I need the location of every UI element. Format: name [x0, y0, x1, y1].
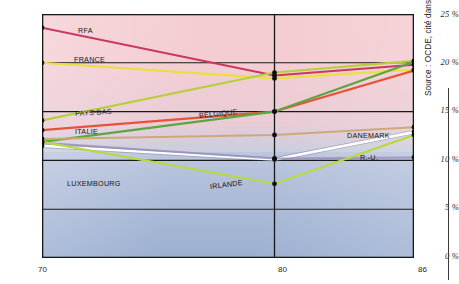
series-label-rfa: RFA: [78, 26, 93, 35]
y-tick-0: 0 %: [419, 251, 459, 261]
series-label-france: FRANCE: [74, 55, 105, 64]
x-tick-80: 80: [278, 265, 287, 274]
series-label-italie: ITALIE: [75, 127, 98, 136]
series-label-luxembourg: LUXEMBOURG: [67, 179, 121, 188]
source-note: Source : OCDE, cité dans CRES , n° 163.: [424, 0, 433, 96]
series-label-ru: R.-U.: [360, 153, 378, 162]
y-tick-15: 15 %: [419, 105, 459, 115]
chart-figure: 25 % 20 % 15 % 10 % 5 % 0 % 70 80 86 RFA…: [0, 0, 459, 284]
plot-area: RFA FRANCE PAYS-BAS ITALIE BELGIQUE DANE…: [42, 14, 414, 258]
source-divider: [448, 88, 449, 280]
x-tick-86: 86: [418, 265, 427, 274]
series-label-danemark: DANEMARK: [347, 131, 390, 140]
y-tick-10: 10 %: [419, 154, 459, 164]
x-tick-70: 70: [38, 265, 47, 274]
y-tick-5: 5 %: [419, 202, 459, 212]
